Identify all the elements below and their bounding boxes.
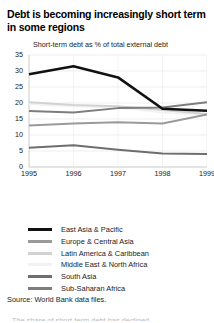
y-axis-tick-label: 25 <box>7 83 23 91</box>
legend-item[interactable]: East Asia & Pacific <box>28 224 208 236</box>
legend-item[interactable]: Latin America & Caribbean <box>28 247 208 259</box>
legend-swatch-icon <box>28 287 52 290</box>
y-axis-tick-label: 35 <box>7 51 23 59</box>
x-axis-tick-label: 1998 <box>149 170 177 178</box>
legend-item-label: Middle East & North Africa <box>61 260 147 269</box>
legend-swatch-icon <box>28 228 52 231</box>
x-axis-tick-label: 1997 <box>104 170 132 178</box>
legend-item-label: Europe & Central Asia <box>61 237 134 246</box>
legend-item[interactable]: Middle East & North Africa <box>28 259 208 271</box>
clipped-body-text: The share of short-term debt has decline… <box>12 316 208 321</box>
y-axis-tick-label: 30 <box>7 67 23 75</box>
y-axis-tick-label: 20 <box>7 99 23 107</box>
legend-item[interactable]: Europe & Central Asia <box>28 236 208 248</box>
legend-item-label: South Asia <box>61 272 96 281</box>
legend-item-label: Latin America & Caribbean <box>61 249 149 258</box>
figure-container: Debt is becoming increasingly short term… <box>0 0 214 323</box>
chart-subtitle: Short-term debt as % of total external d… <box>33 40 168 49</box>
y-axis-tick-label: 5 <box>7 147 23 155</box>
legend-item[interactable]: Sub-Saharan Africa <box>28 282 208 294</box>
plot-region: 05101520253035 19951996199719981999 <box>7 51 207 183</box>
y-axis-tick-label: 10 <box>7 131 23 139</box>
legend-swatch-icon <box>28 240 52 243</box>
legend-item-label: East Asia & Pacific <box>61 225 123 234</box>
legend-item-label: Sub-Saharan Africa <box>61 284 125 293</box>
x-axis-tick-label: 1999 <box>193 170 214 178</box>
chart-legend: East Asia & PacificEurope & Central Asia… <box>28 224 208 294</box>
legend-swatch-icon <box>28 263 52 266</box>
chart-area: Short-term debt as % of total external d… <box>7 40 207 200</box>
y-axis-tick-label: 15 <box>7 115 23 123</box>
x-axis-tick-label: 1995 <box>15 170 43 178</box>
page-title: Debt is becoming increasingly short term… <box>7 8 207 34</box>
legend-item[interactable]: South Asia <box>28 271 208 283</box>
legend-swatch-icon <box>28 275 52 278</box>
line-chart-svg <box>7 51 207 183</box>
x-axis-tick-label: 1996 <box>60 170 88 178</box>
source-note: Source: World Bank data files. <box>7 295 106 304</box>
legend-swatch-icon <box>28 252 52 255</box>
